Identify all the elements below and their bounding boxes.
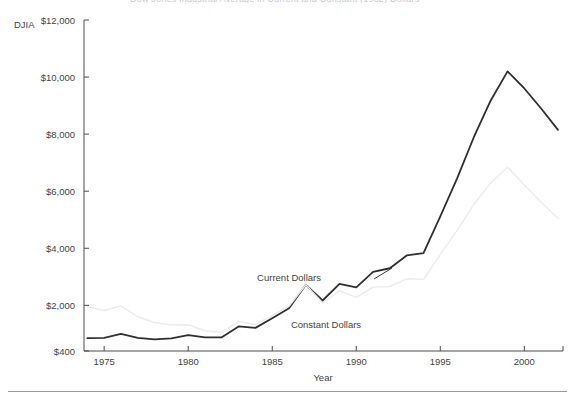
x-tick-label: 1980 [178,356,199,367]
constant-dollars-annotation: Constant Dollars [291,319,361,330]
y-tick-label: $10,000 [41,72,75,83]
series-line-current-dollars [87,71,558,339]
x-axis-ticks [104,346,563,351]
current-dollars-annotation: Current Dollars [257,272,321,283]
djia-line-chart: DJIA $400$2,000$4,000$6,000$8,000$10,000… [0,0,575,401]
x-tick-label: 1995 [430,356,451,367]
y-tick-label: $8,000 [46,129,75,140]
chart-annotations-layer: Current DollarsConstant Dollars [257,272,361,330]
y-tick-label: $12,000 [41,15,75,26]
y-axis-title: DJIA [14,19,35,30]
chart-series-layer [87,71,558,339]
y-tick-label: $400 [54,346,75,357]
chart-figure: Dow Jones Industrial Average in Current … [0,0,575,401]
x-tick-label: 1985 [262,356,283,367]
x-tick-label: 2000 [514,356,535,367]
y-axis-tick-labels: $400$2,000$4,000$6,000$8,000$10,000$12,0… [41,15,75,357]
x-axis-title: Year [313,372,332,383]
x-tick-label: 1975 [94,356,115,367]
series-line-constant-dollars [87,167,558,332]
y-tick-label: $2,000 [46,300,75,311]
x-axis-tick-labels: 197519801985199019952000 [94,356,535,367]
y-axis-ticks [84,20,89,351]
y-tick-label: $4,000 [46,243,75,254]
axis-spines [84,20,563,351]
footer-divider [8,391,567,392]
x-tick-label: 1990 [346,356,367,367]
y-tick-label: $6,000 [46,186,75,197]
